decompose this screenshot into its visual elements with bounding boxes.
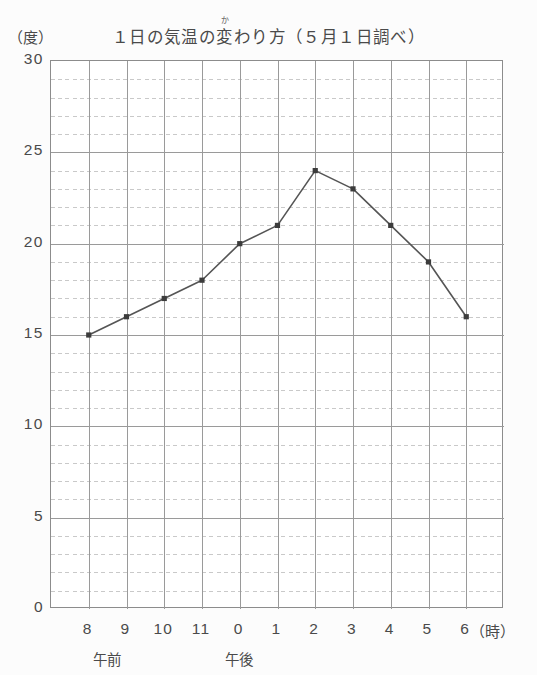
x-axis-tick-label: 6 (445, 620, 485, 638)
x-axis-tick-label: 10 (143, 620, 183, 638)
x-axis-tick-label: 11 (181, 620, 221, 638)
x-axis-tick-label: 9 (106, 620, 146, 638)
chart-figure: １日の気温のか変わり方（５月１日調べ） （度） （時） 8時 : 15度9時 :… (0, 0, 537, 675)
x-axis-tick-label: 3 (332, 620, 372, 638)
x-axis-tick-label: 1 (257, 620, 297, 638)
x-axis-tick-label: 2 (294, 620, 334, 638)
x-axis-tick-label: 0 (219, 620, 259, 638)
x-axis-tick-label: 4 (370, 620, 410, 638)
x-axis-tick-labels: 8910110123456午前午後 (0, 0, 537, 675)
x-axis-period-label: 午前 (77, 648, 137, 669)
x-axis-period-label: 午後 (209, 648, 269, 669)
x-axis-tick-label: 8 (68, 620, 108, 638)
x-axis-tick-label: 5 (408, 620, 448, 638)
